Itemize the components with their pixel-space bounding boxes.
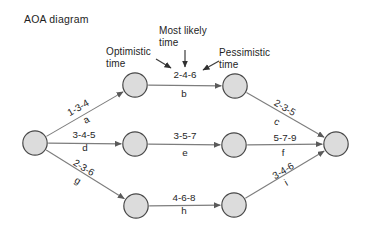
node-mid-left — [123, 132, 147, 156]
node-bottom-left — [124, 194, 148, 218]
edge-duration-g: 2-3-6 — [71, 157, 97, 178]
node-start — [23, 131, 47, 155]
diagram-title: AOA diagram — [24, 13, 89, 25]
aoa-diagram-figure: 1-3-4a2-4-6b2-3-5c3-4-5d3-5-7e5-7-9f2-3-… — [0, 0, 366, 232]
node-top-left — [123, 73, 147, 97]
edge-letter-g: g — [73, 174, 83, 186]
edge-line-b — [148, 85, 221, 86]
edge-letter-e: e — [182, 147, 188, 158]
optimistic-time-label: Optimistic time — [106, 46, 151, 69]
edge-letter-f: f — [282, 147, 285, 158]
edge-letter-b: b — [181, 88, 187, 99]
edge-letter-c: c — [272, 116, 282, 128]
edge-duration-b: 2-4-6 — [174, 69, 197, 80]
node-top-right — [223, 74, 247, 98]
edge-line-f — [247, 144, 322, 145]
edge-duration-h: 4-6-8 — [173, 192, 196, 203]
pessimistic-arrow — [203, 61, 219, 70]
optimistic-arrow — [156, 59, 171, 68]
edge-line-e — [148, 144, 220, 145]
edge-letter-a: a — [81, 113, 92, 126]
most-likely-time-label: Most likely time — [159, 25, 207, 48]
edge-letter-d: d — [82, 142, 87, 153]
annotation-arrows-layer — [156, 50, 219, 70]
edge-duration-d: 3-4-5 — [73, 129, 96, 140]
node-end — [324, 132, 348, 156]
edge-letter-i: i — [282, 177, 290, 188]
edge-line-c — [246, 93, 324, 138]
edge-letter-h: h — [181, 205, 186, 216]
pessimistic-time-label: Pessimistic time — [219, 47, 270, 70]
edge-duration-a: 1-3-4 — [65, 97, 91, 118]
edge-duration-f: 5-7-9 — [274, 132, 297, 143]
node-mid-right — [222, 133, 246, 157]
node-bottom-right — [222, 193, 246, 217]
edge-duration-e: 3-5-7 — [174, 130, 197, 141]
edge-labels-layer: 1-3-4a2-4-6b2-3-5c3-4-5d3-5-7e5-7-9f2-3-… — [65, 69, 298, 216]
